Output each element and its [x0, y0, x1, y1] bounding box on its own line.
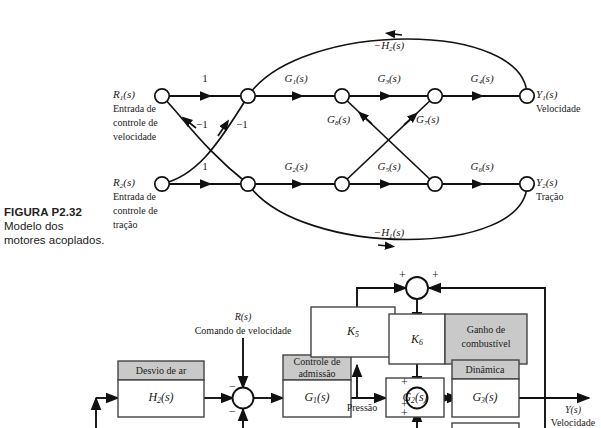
label-gain-cross-left: −1 [196, 118, 208, 130]
label-y2-desc: Tração [536, 191, 563, 202]
node-top-3 [428, 89, 442, 103]
label-output-symbol: Y(s) [565, 404, 581, 415]
label-r2: R2(s) [113, 176, 135, 188]
block-k5-text: K5 [347, 324, 359, 339]
sum-fuel [406, 277, 428, 299]
label-reference-desc: Comando de velocidade [195, 325, 292, 336]
block-h2-body-text: H2(s) [148, 390, 173, 405]
label-r1-desc-2: controle de [113, 117, 158, 128]
sign-sum-fuel-left: + [399, 268, 406, 283]
node-r2 [155, 177, 169, 191]
block-g3-body-text: G3(s) [472, 390, 497, 405]
node-top-2 [335, 89, 349, 103]
node-r1 [155, 89, 169, 103]
block-g3-header-text: Dinâmica [466, 364, 505, 375]
node-y1 [520, 89, 534, 103]
sign-sum1-bottom: − [229, 404, 236, 419]
label-r2-desc-3: tração [113, 219, 137, 230]
node-y2 [520, 177, 534, 191]
figure-caption-line1: Modelo dos [4, 220, 63, 232]
label-r1: R1(s) [113, 88, 135, 100]
label-h1: −H1(s) [374, 226, 405, 238]
label-r1-desc-1: Entrada de [113, 103, 156, 114]
label-gain-cross-right: −1 [236, 118, 248, 130]
block-h2-header-text: Desvio de ar [136, 365, 187, 376]
label-g7: G7(s) [416, 113, 439, 125]
sfg-nodes [155, 89, 534, 191]
block-g1-body-text: G1(s) [304, 390, 329, 405]
label-g1: G1(s) [284, 72, 307, 84]
label-g6: G6(s) [470, 160, 493, 172]
sign-sum-fuel-right: + [432, 268, 439, 283]
sign-sum-dyn-top: + [401, 375, 408, 390]
block-g1-header-line2: admissão [298, 368, 335, 379]
node-bot-1 [241, 177, 255, 191]
label-g8: G8(s) [327, 113, 350, 125]
label-y2: Y2(s) [536, 176, 557, 188]
label-reference-symbol: R(s) [235, 311, 252, 322]
label-g2: G2(s) [284, 160, 307, 172]
sign-sum-dyn-bottom: + [401, 406, 408, 421]
label-r2-desc-1: Entrada de [113, 191, 156, 202]
block-cutoff-bottom [452, 423, 519, 428]
label-gain-top-unity: 1 [202, 72, 208, 84]
label-fuel-gain-line1: Ganho de [467, 324, 506, 335]
label-output-desc: Velocidade [551, 417, 595, 428]
label-g4: G4(s) [470, 72, 493, 84]
node-bot-3 [428, 177, 442, 191]
label-h2: −H2(s) [374, 39, 405, 51]
label-pressure: Pressão [347, 402, 378, 413]
label-g3: G3(s) [377, 72, 400, 84]
sign-sum1-top: − [229, 379, 236, 394]
node-bot-2 [335, 177, 349, 191]
label-r1-desc-3: velocidade [113, 131, 156, 142]
figure-caption-title: FIGURA P2.32 [4, 206, 82, 218]
label-y1-desc: Velocidade [536, 103, 580, 114]
label-g5: G5(s) [377, 160, 400, 172]
label-y1: Y1(s) [536, 88, 557, 100]
label-gain-bottom-unity: 1 [202, 160, 208, 172]
node-top-1 [241, 89, 255, 103]
block-g1-header-line1: Controle de [294, 356, 341, 367]
label-fuel-gain-line2: combustível [462, 338, 511, 349]
figure-page: FIGURA P2.32 Modelo dos motores acoplado… [0, 0, 601, 428]
label-r2-desc-2: controle de [113, 205, 158, 216]
block-k6-text: K6 [411, 332, 423, 347]
figure-caption-line2: motores acoplados. [4, 234, 104, 246]
